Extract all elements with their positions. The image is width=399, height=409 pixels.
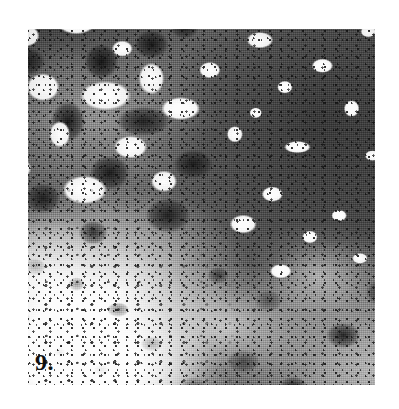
figure-plate-image: [28, 29, 375, 385]
page-canvas: 9.: [0, 0, 399, 409]
plate-vignette: [28, 29, 375, 385]
figure-number-label: 9.: [35, 350, 54, 374]
